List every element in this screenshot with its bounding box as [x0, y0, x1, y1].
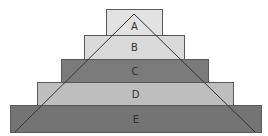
layer-c-label: C	[132, 66, 139, 77]
layer-b-label: B	[131, 42, 138, 53]
layer-b: B	[84, 35, 185, 60]
layer-d-label: D	[132, 89, 140, 100]
layer-c: C	[61, 59, 209, 83]
layer-e: E	[10, 105, 262, 133]
layer-a: A	[106, 9, 163, 36]
layer-a-label: A	[131, 21, 138, 32]
layer-e-label: E	[133, 114, 139, 125]
layer-d: D	[37, 82, 234, 106]
